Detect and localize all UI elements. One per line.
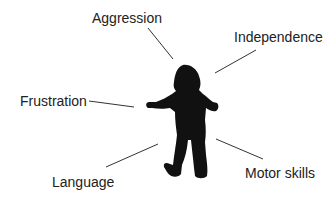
label-motor-skills: Motor skills	[245, 166, 315, 180]
label-aggression: Aggression	[92, 11, 162, 25]
child-silhouette-icon	[146, 65, 218, 178]
connector-language	[106, 144, 158, 167]
connector-motor-skills	[216, 139, 263, 159]
label-independence: Independence	[234, 30, 323, 44]
label-language: Language	[52, 175, 114, 189]
connector-aggression	[148, 28, 173, 59]
label-frustration: Frustration	[20, 94, 87, 108]
connector-independence	[215, 50, 256, 73]
connector-frustration	[89, 101, 134, 107]
